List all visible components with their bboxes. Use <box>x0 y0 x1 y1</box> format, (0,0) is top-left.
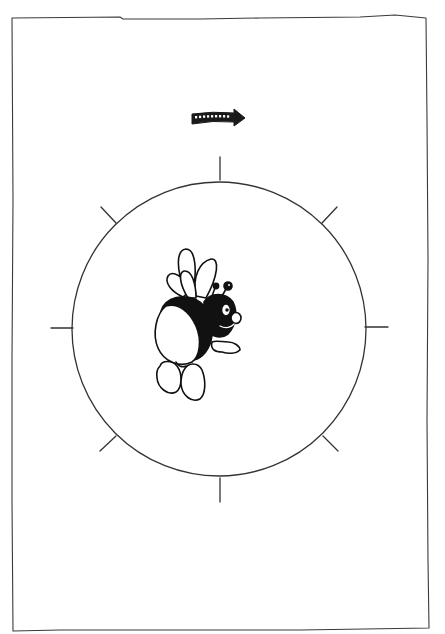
tick-bottom-right <box>323 436 338 451</box>
bee-foot-left <box>157 362 181 394</box>
clockwise-arrow-icon <box>192 109 245 126</box>
tick-top-right <box>322 207 337 223</box>
bee-illustration <box>155 249 241 400</box>
tick-top-left <box>101 207 116 223</box>
bee-hand <box>212 341 240 353</box>
bee-antenna-tip <box>224 282 232 290</box>
task-card <box>0 0 445 634</box>
bee-antenna-tip <box>213 283 218 288</box>
figure-canvas <box>0 0 445 634</box>
bee-nose <box>231 313 241 324</box>
bee-foot-right <box>181 364 205 400</box>
tick-bottom-left <box>100 436 116 451</box>
